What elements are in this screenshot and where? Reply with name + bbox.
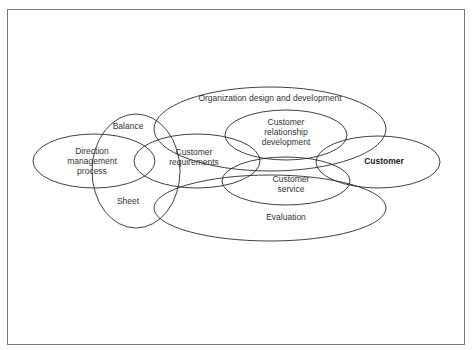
- evaluation-text: Evaluation: [266, 212, 306, 222]
- balance-text: Balance: [113, 121, 144, 131]
- direction-text-line-3: process: [67, 166, 117, 176]
- customer-text: Customer: [364, 156, 404, 166]
- organization-label: Organization design and development: [198, 93, 341, 103]
- direction-text-line-1: Direction: [67, 146, 117, 156]
- relationship-text-line-2: relationship: [262, 127, 311, 137]
- requirements-text-line-1: Customer: [169, 147, 219, 157]
- customer-requirements-label: Customer requirements: [169, 147, 219, 167]
- customer-service-label: Customer service: [273, 174, 310, 194]
- requirements-text-line-2: requirements: [169, 157, 219, 167]
- customer-relationship-label: Customer relationship development: [262, 117, 311, 147]
- relationship-text-line-3: development: [262, 137, 311, 147]
- evaluation-label: Evaluation: [266, 212, 306, 222]
- direction-label: Direction management process: [67, 146, 117, 176]
- evaluation-ellipse: [154, 175, 386, 241]
- direction-text-line-2: management: [67, 156, 117, 166]
- relationship-text-line-1: Customer: [262, 117, 311, 127]
- organization-text: Organization design and development: [198, 93, 341, 103]
- service-text-line-1: Customer: [273, 174, 310, 184]
- customer-label: Customer: [364, 156, 404, 166]
- balance-label: Balance: [113, 121, 144, 131]
- service-text-line-2: service: [273, 184, 310, 194]
- sheet-text: Sheet: [117, 196, 139, 206]
- sheet-label: Sheet: [117, 196, 139, 206]
